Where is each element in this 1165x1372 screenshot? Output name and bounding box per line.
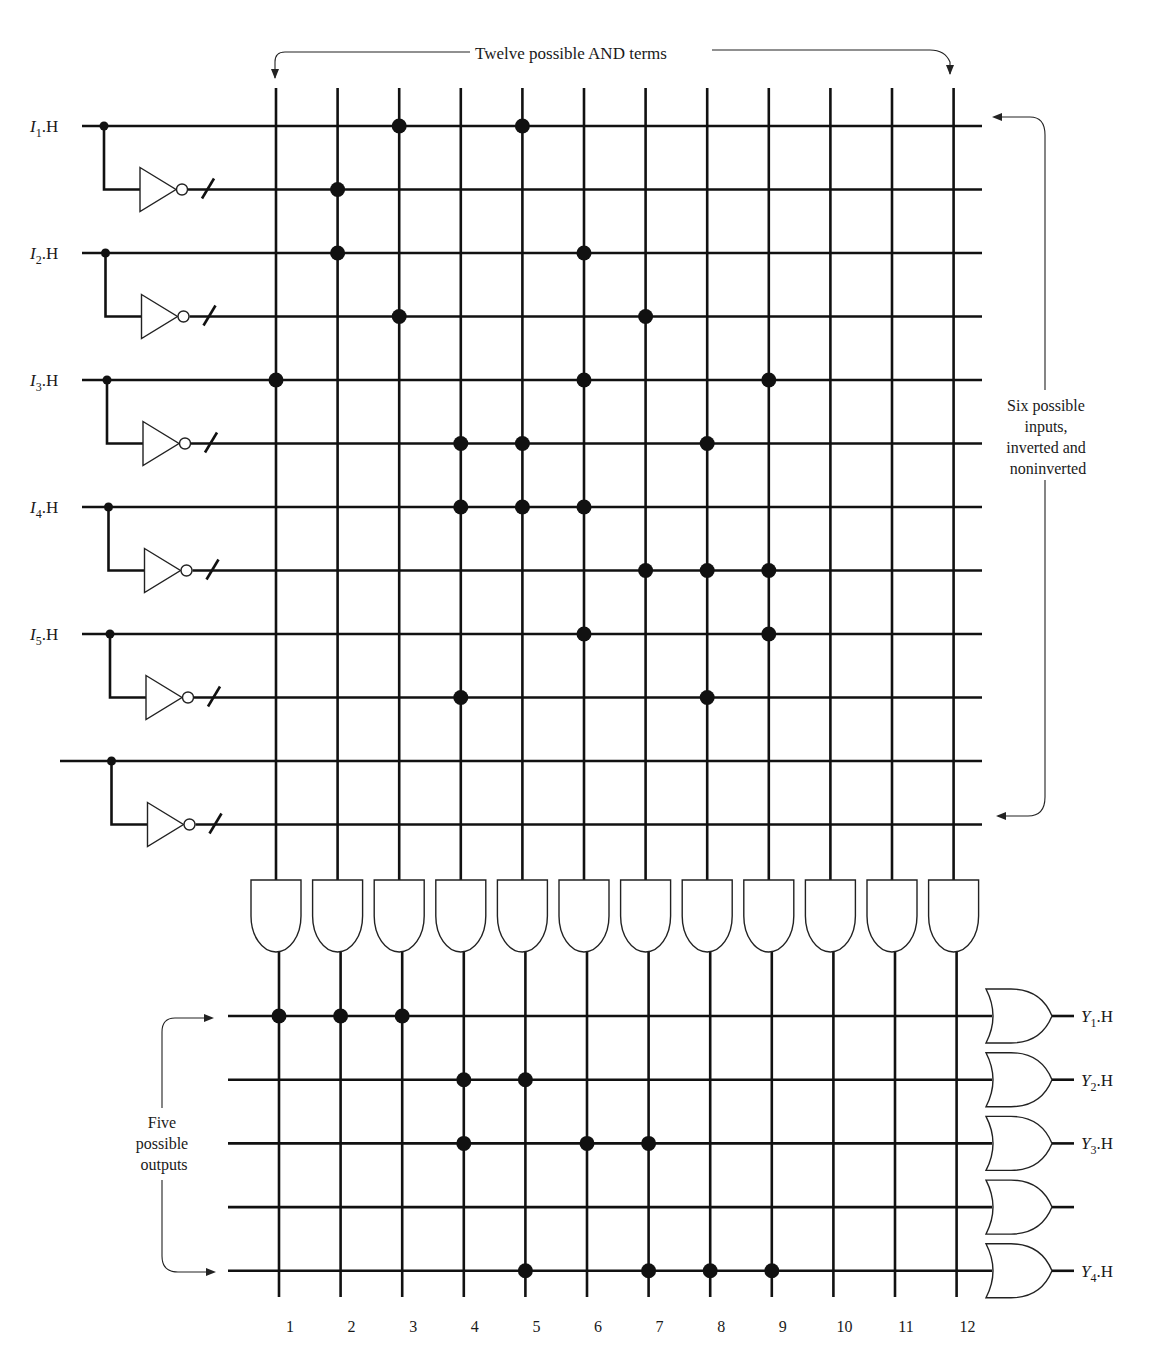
bracket-top-icon <box>995 117 1045 390</box>
bracket-bottom-icon <box>998 480 1045 816</box>
inputs-annotation: Six possible inputs, inverted and noninv… <box>992 113 1090 820</box>
or-gate-icon <box>986 1116 1052 1170</box>
connection-dot <box>272 1009 287 1024</box>
inverter-feed-line <box>107 380 143 444</box>
outputs-annotation: Five possible outputs <box>136 1014 216 1276</box>
and-gate-icon <box>559 880 609 952</box>
connection-dot <box>330 246 345 261</box>
connection-dot <box>700 563 715 578</box>
and-term-number: 11 <box>898 1318 913 1335</box>
inverter-bubble-icon <box>177 184 188 195</box>
outputs-annotation-line: Five <box>148 1114 176 1131</box>
connection-dot <box>638 309 653 324</box>
output-label: Y3.H <box>1081 1134 1113 1157</box>
arrow-left-icon <box>275 52 470 78</box>
and-term-number: 12 <box>960 1318 976 1335</box>
connection-dot <box>577 500 592 515</box>
connection-dot <box>700 436 715 451</box>
connection-dot <box>580 1136 595 1151</box>
connection-dot <box>515 119 530 134</box>
and-term-number: 3 <box>409 1318 417 1335</box>
inverter-icon <box>140 168 176 212</box>
connection-dot <box>641 1263 656 1278</box>
inverter-icon <box>146 676 182 720</box>
inputs-annotation-line: Six possible <box>1007 397 1085 415</box>
and-term-number: 10 <box>836 1318 852 1335</box>
and-term-number: 6 <box>594 1318 602 1335</box>
bracket-top-icon <box>162 1018 206 1108</box>
and-gate-icon <box>313 880 363 952</box>
connection-dot <box>761 373 776 388</box>
svg-text:Five possible outp: Five possible outputs <box>136 1114 192 1174</box>
inverter-bubble-icon <box>180 438 191 449</box>
connection-dot <box>761 627 776 642</box>
and-term-number: 9 <box>779 1318 787 1335</box>
inverter-feed-line <box>110 634 146 698</box>
input-label: I5.H <box>29 625 58 648</box>
connection-dot <box>641 1136 656 1151</box>
inverter-feed-line <box>106 253 142 317</box>
connection-dot <box>395 1009 410 1024</box>
inverter-feed-line <box>104 126 140 190</box>
or-gate-icon <box>986 1180 1052 1234</box>
inverter-icon <box>148 803 184 847</box>
connection-dot <box>761 563 776 578</box>
input-label: I3.H <box>29 371 58 394</box>
and-gate-icon <box>436 880 486 952</box>
connection-dot <box>518 1072 533 1087</box>
connection-dot <box>453 436 468 451</box>
arrow-icon <box>206 1268 216 1276</box>
and-term-number: 1 <box>286 1318 294 1335</box>
and-gate-icon <box>497 880 547 952</box>
inverter-feed-line <box>112 761 148 825</box>
outputs-annotation-line: outputs <box>140 1156 187 1174</box>
connection-dot <box>518 1263 533 1278</box>
and-gate-icon <box>682 880 732 952</box>
connection-dot <box>577 373 592 388</box>
inverter-bubble-icon <box>184 819 195 830</box>
or-gate-icon <box>986 1053 1052 1107</box>
and-term-number: 8 <box>717 1318 725 1335</box>
svg-text:Six possible inputs,: Six possible inputs, inverted and noninv… <box>1006 397 1090 477</box>
connection-dot <box>577 627 592 642</box>
pla-diagram: Twelve possible AND terms Six possible i… <box>0 0 1165 1372</box>
inverter-bubble-icon <box>183 692 194 703</box>
and-term-number: 5 <box>532 1318 540 1335</box>
inputs-annotation-line: noninverted <box>1010 460 1086 477</box>
arrow-right-icon <box>712 50 950 74</box>
connection-dot <box>453 500 468 515</box>
input-label: I1.H <box>29 117 58 140</box>
inverter-bubble-icon <box>181 565 192 576</box>
inverter-bubble-icon <box>178 311 189 322</box>
output-label: Y1.H <box>1081 1007 1113 1030</box>
input-label: I2.H <box>29 244 58 267</box>
connection-dot <box>638 563 653 578</box>
connection-dot <box>515 500 530 515</box>
inverter-icon <box>143 422 179 466</box>
input-label: I4.H <box>29 498 58 521</box>
and-gate-icon <box>251 880 301 952</box>
connection-dot <box>577 246 592 261</box>
and-term-number: 2 <box>348 1318 356 1335</box>
connection-dot <box>456 1072 471 1087</box>
inputs-annotation-line: inverted and <box>1006 439 1086 456</box>
and-term-number: 4 <box>471 1318 479 1335</box>
connection-dot <box>392 119 407 134</box>
connection-dot <box>269 373 284 388</box>
connection-dot <box>703 1263 718 1278</box>
arrow-icon <box>204 1014 214 1022</box>
connection-dot <box>700 690 715 705</box>
and-gate-icon <box>805 880 855 952</box>
outputs-annotation-line: possible <box>136 1135 188 1153</box>
and-terms-annotation: Twelve possible AND terms <box>275 44 950 78</box>
connection-dot <box>333 1009 348 1024</box>
inverter-icon <box>142 295 178 339</box>
connection-dot <box>764 1263 779 1278</box>
output-label: Y4.H <box>1081 1262 1113 1285</box>
or-gate-icon <box>986 1244 1052 1298</box>
and-gate-icon <box>929 880 979 952</box>
inverter-feed-line <box>109 507 145 571</box>
connection-dot <box>392 309 407 324</box>
and-gate-icon <box>867 880 917 952</box>
inputs-annotation-line: inputs, <box>1024 418 1067 436</box>
